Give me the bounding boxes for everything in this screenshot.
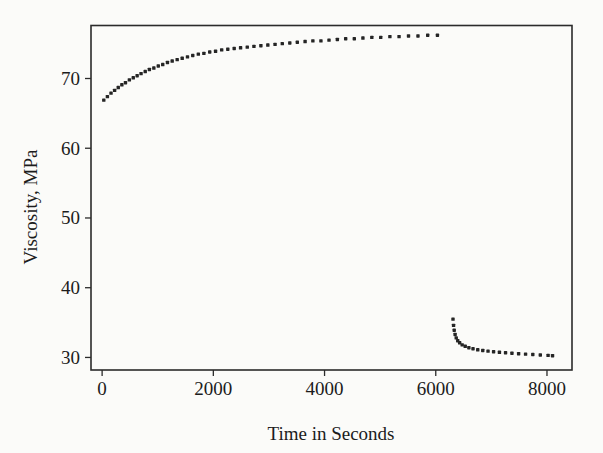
data-point — [451, 317, 454, 320]
data-point — [214, 50, 217, 53]
data-point — [476, 348, 479, 351]
data-point — [379, 36, 382, 39]
data-point — [319, 39, 322, 42]
y-tick-label: 40 — [61, 277, 80, 298]
data-point — [460, 343, 463, 346]
plot-frame — [91, 26, 572, 371]
data-point — [232, 47, 235, 50]
data-point — [464, 345, 467, 348]
data-point — [273, 43, 276, 46]
data-point — [453, 329, 456, 332]
figure-page: 3040506070 02000400060008000 Time in Sec… — [0, 0, 603, 453]
data-point — [124, 81, 127, 84]
data-point — [344, 37, 347, 40]
data-point — [144, 70, 147, 73]
data-point — [492, 350, 495, 353]
data-point — [157, 64, 160, 67]
y-tick-label: 60 — [61, 138, 80, 159]
data-point — [139, 72, 142, 75]
data-point — [239, 46, 242, 49]
viscosity-vs-time-chart: 3040506070 02000400060008000 Time in Sec… — [0, 0, 603, 453]
data-point — [191, 54, 194, 57]
data-point — [102, 98, 105, 101]
y-axis-tick-labels: 3040506070 — [61, 68, 80, 368]
data-point — [148, 68, 151, 71]
data-point — [388, 35, 391, 38]
data-point — [531, 353, 534, 356]
data-point — [370, 36, 373, 39]
data-point — [166, 61, 169, 64]
data-point — [303, 40, 306, 43]
series-rising-branch — [102, 34, 439, 102]
data-point — [170, 59, 173, 62]
y-tick-label: 50 — [61, 207, 80, 228]
data-point — [361, 36, 364, 39]
data-point — [135, 74, 138, 77]
data-series-layer — [102, 34, 554, 358]
data-point — [296, 41, 299, 44]
data-point — [486, 349, 489, 352]
data-point — [132, 76, 135, 79]
data-point — [336, 38, 339, 41]
data-point — [259, 44, 262, 47]
data-point — [467, 346, 470, 349]
series-falling-branch — [451, 317, 554, 357]
data-point — [186, 55, 189, 58]
data-point — [266, 43, 269, 46]
data-point — [117, 86, 120, 89]
data-point — [109, 91, 112, 94]
data-point — [510, 352, 513, 355]
x-axis-ticks — [102, 370, 547, 376]
data-point — [546, 354, 549, 357]
y-tick-label: 30 — [61, 347, 80, 368]
data-point — [246, 45, 249, 48]
data-point — [252, 45, 255, 48]
data-point — [353, 37, 356, 40]
y-axis-ticks — [85, 79, 91, 358]
data-point — [288, 41, 291, 44]
data-point — [471, 347, 474, 350]
data-point — [120, 83, 123, 86]
data-point — [426, 34, 429, 37]
data-point — [452, 324, 455, 327]
data-point — [311, 39, 314, 42]
data-point — [517, 352, 520, 355]
data-point — [202, 52, 205, 55]
data-point — [539, 353, 542, 356]
data-point — [498, 351, 501, 354]
data-point — [161, 63, 164, 66]
data-point — [397, 35, 400, 38]
data-point — [416, 34, 419, 37]
data-point — [504, 351, 507, 354]
data-point — [175, 58, 178, 61]
data-point — [551, 354, 554, 357]
data-point — [407, 34, 410, 37]
data-point — [106, 95, 109, 98]
y-tick-label: 70 — [61, 68, 80, 89]
y-axis-title: Viscosity, MPa — [20, 149, 41, 264]
x-axis-title: Time in Seconds — [267, 423, 394, 444]
data-point — [113, 89, 116, 92]
data-point — [226, 48, 229, 51]
data-point — [197, 52, 200, 55]
data-point — [181, 57, 184, 60]
x-tick-label: 0 — [97, 378, 107, 399]
data-point — [128, 78, 131, 81]
data-point — [152, 66, 155, 69]
data-point — [208, 50, 211, 53]
x-tick-label: 6000 — [417, 378, 455, 399]
data-point — [481, 349, 484, 352]
data-point — [220, 48, 223, 51]
data-point — [327, 38, 330, 41]
data-point — [524, 352, 527, 355]
x-tick-label: 8000 — [528, 378, 566, 399]
x-tick-label: 4000 — [306, 378, 344, 399]
data-point — [281, 42, 284, 45]
x-axis-tick-labels: 02000400060008000 — [97, 378, 566, 399]
x-tick-label: 2000 — [194, 378, 232, 399]
data-point — [436, 34, 439, 37]
data-point — [453, 333, 456, 336]
